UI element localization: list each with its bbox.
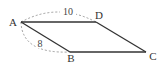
parallelogram-diagram: 10 8 A D B C xyxy=(0,0,168,63)
length-label-ab: 8 xyxy=(38,38,43,49)
length-label-ad: 10 xyxy=(63,6,73,17)
vertex-label-a: A xyxy=(9,16,17,28)
vertex-label-c: C xyxy=(149,50,156,62)
dimension-arc-ad xyxy=(21,12,96,22)
vertex-label-d: D xyxy=(95,9,103,21)
edge-ba xyxy=(21,22,70,52)
edge-dc xyxy=(96,22,146,52)
vertex-label-b: B xyxy=(67,52,74,63)
